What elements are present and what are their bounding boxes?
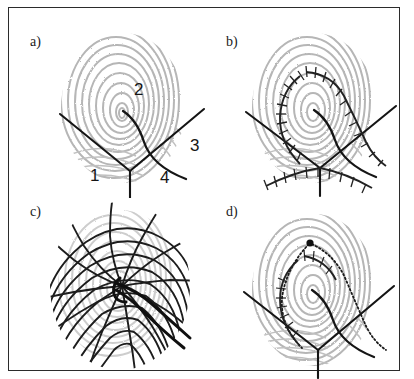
- singular-point-marker: [306, 239, 313, 246]
- region-label-3: 3: [190, 136, 199, 155]
- panel-d: d): [214, 198, 410, 379]
- panel-a: a): [18, 16, 214, 198]
- region-label-2: 2: [134, 80, 143, 99]
- panel-c-label: c): [30, 204, 41, 220]
- panel-c: c): [18, 198, 214, 379]
- figure-container: a): [0, 0, 414, 379]
- panel-c-canvas: [18, 198, 214, 379]
- panel-d-canvas: [214, 198, 410, 379]
- fingerprint-ridges-a: [47, 16, 198, 186]
- panel-a-canvas: 1 2 3 4: [18, 16, 214, 198]
- panel-b-canvas: [214, 16, 410, 198]
- curvilinear-mesh-c: [36, 202, 208, 379]
- region-label-1: 1: [90, 166, 99, 185]
- panel-b: b): [214, 16, 410, 198]
- panel-a-label: a): [30, 34, 41, 50]
- figure-frame: a): [8, 7, 400, 371]
- panel-d-label: d): [226, 204, 238, 220]
- region-label-4: 4: [160, 168, 169, 187]
- partition-lines-a: [60, 109, 204, 198]
- panel-b-label: b): [226, 34, 238, 50]
- hatched-track-bottom: [264, 166, 372, 193]
